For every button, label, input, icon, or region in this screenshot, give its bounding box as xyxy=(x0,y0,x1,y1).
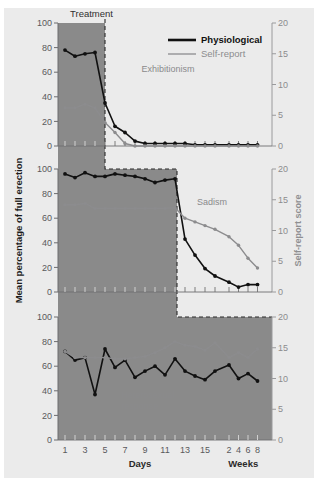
series-data-point xyxy=(93,175,97,179)
series-data-point xyxy=(113,357,116,360)
series-data-point xyxy=(163,144,166,147)
series-data-point xyxy=(237,144,240,147)
series-data-point xyxy=(256,283,260,287)
x-axis-day-tick-label: 13 xyxy=(180,445,190,455)
series-data-point xyxy=(193,345,196,348)
treatment-shaded-region xyxy=(58,169,177,292)
series-data-point xyxy=(163,178,167,182)
series-data-point xyxy=(163,346,166,349)
series-data-point xyxy=(237,351,240,354)
x-axis-week-tick-label: 6 xyxy=(245,445,250,455)
series-data-point xyxy=(173,357,177,361)
left-axis-tick-label: 40 xyxy=(42,92,52,102)
series-data-point xyxy=(83,356,86,359)
series-data-point xyxy=(93,51,97,55)
series-data-point xyxy=(213,369,217,373)
left-axis-tick-label: 100 xyxy=(37,312,52,322)
left-axis-title: Mean percentage of full erection xyxy=(13,157,24,303)
series-data-point xyxy=(213,144,216,147)
x-axis-day-tick-label: 15 xyxy=(200,445,210,455)
legend-label: Self-report xyxy=(201,48,246,59)
left-axis-tick-label: 80 xyxy=(42,189,52,199)
series-data-point xyxy=(256,379,260,383)
series-data-point xyxy=(246,283,250,287)
series-data-point xyxy=(246,356,249,359)
series-data-point xyxy=(153,144,156,147)
right-axis-title: Self-report score xyxy=(293,194,303,266)
series-data-point xyxy=(123,142,126,145)
left-axis-tick-label: 40 xyxy=(42,238,52,248)
series-data-point xyxy=(113,172,117,176)
series-data-point xyxy=(203,267,207,271)
series-data-point xyxy=(143,144,146,147)
x-axis-day-tick-label: 1 xyxy=(62,445,67,455)
series-data-point xyxy=(227,280,231,284)
series-data-point xyxy=(183,144,186,147)
series-data-point xyxy=(103,347,107,351)
series-data-point xyxy=(123,357,126,360)
series-data-point xyxy=(93,393,97,397)
panel-annotation: Exhibitionism xyxy=(141,64,194,74)
series-data-point xyxy=(203,349,206,352)
left-axis-tick-label: 40 xyxy=(42,386,52,396)
series-data-point xyxy=(203,378,207,382)
series-data-point xyxy=(73,356,76,359)
series-data-point xyxy=(133,144,136,147)
left-axis-tick-label: 60 xyxy=(42,67,52,77)
x-axis-day-tick-label: 11 xyxy=(160,445,169,455)
x-axis-week-tick-label: 8 xyxy=(255,445,260,455)
right-axis-tick-label: 20 xyxy=(278,164,288,174)
left-axis-tick-label: 0 xyxy=(47,287,52,297)
x-axis-day-tick-label: 7 xyxy=(122,445,127,455)
series-data-point xyxy=(93,207,96,210)
series-data-point xyxy=(133,139,137,143)
series-data-point xyxy=(213,341,216,344)
right-axis-tick-label: 15 xyxy=(278,343,288,353)
series-data-point xyxy=(183,217,186,220)
right-axis-tick-label: 5 xyxy=(278,256,283,266)
series-data-point xyxy=(63,172,67,176)
series-data-point xyxy=(256,144,259,147)
series-data-point xyxy=(183,344,186,347)
series-data-point xyxy=(237,377,241,381)
left-axis-tick-label: 0 xyxy=(47,141,52,151)
series-data-point xyxy=(153,351,156,354)
panel-annotation: Sadism xyxy=(197,197,227,207)
series-data-point xyxy=(63,350,66,353)
left-axis-tick-label: 20 xyxy=(42,411,52,421)
right-axis-tick-label: 0 xyxy=(278,435,283,445)
right-axis-tick-label: 10 xyxy=(278,374,288,384)
left-axis-tick-label: 100 xyxy=(37,18,52,28)
legend-label: Physiological xyxy=(201,34,262,45)
left-axis-tick-label: 60 xyxy=(42,361,52,371)
series-data-point xyxy=(193,144,196,147)
series-data-point xyxy=(203,144,206,147)
x-axis-week-tick-label: 2 xyxy=(226,445,231,455)
series-data-point xyxy=(256,266,259,269)
x-axis-title-weeks: Weeks xyxy=(228,458,258,469)
series-data-point xyxy=(123,207,126,210)
series-data-point xyxy=(203,224,206,227)
series-data-point xyxy=(123,173,127,177)
series-data-point xyxy=(133,356,136,359)
series-data-point xyxy=(193,374,197,378)
series-data-point xyxy=(227,235,230,238)
panel-annotation: response xyxy=(121,401,158,411)
series-data-point xyxy=(193,220,196,223)
right-axis-tick-label: 10 xyxy=(278,80,288,90)
series-data-point xyxy=(246,144,249,147)
series-data-point xyxy=(237,244,240,247)
series-data-point xyxy=(63,203,66,206)
series-data-point xyxy=(246,257,249,260)
series-data-point xyxy=(113,207,116,210)
series-data-point xyxy=(113,366,117,370)
treatment-shaded-region xyxy=(58,23,105,146)
left-axis-tick-label: 80 xyxy=(42,337,52,347)
left-axis-tick-label: 60 xyxy=(42,213,52,223)
series-data-point xyxy=(73,106,76,109)
series-data-point xyxy=(83,103,86,106)
series-data-point xyxy=(143,207,146,210)
series-data-point xyxy=(143,369,147,373)
series-data-point xyxy=(153,181,157,185)
series-data-point xyxy=(103,101,107,105)
